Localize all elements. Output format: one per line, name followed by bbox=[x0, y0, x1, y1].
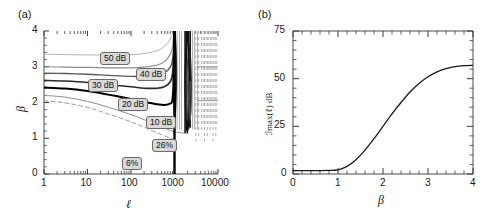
panel-a-ytick-label-4: 4 bbox=[32, 24, 38, 35]
panel-b-xtick-label-3: 3 bbox=[425, 177, 431, 188]
contour-label-6pct: 6% bbox=[122, 157, 142, 170]
panel-b-ticks bbox=[293, 31, 473, 174]
panel-b-curve bbox=[293, 65, 473, 170]
panel-a-xaxis-title: ℓ bbox=[126, 197, 131, 212]
figure-container: (a) (b) 1 10 100 1000 10000 0 1 2 3 4 ℓ … bbox=[0, 0, 497, 222]
contour-label-26pct: 26% bbox=[152, 139, 177, 152]
figure-svg bbox=[0, 0, 497, 222]
contour-label-10db: 10 dB bbox=[146, 116, 176, 129]
panel-a-xtick-label-10: 10 bbox=[81, 177, 92, 188]
panel-b-group bbox=[293, 31, 473, 174]
panel-a-ytick-label-3: 3 bbox=[32, 60, 38, 71]
panel-b-xaxis-title: β bbox=[378, 193, 384, 208]
panel-a-ytick-label-2: 2 bbox=[32, 96, 38, 107]
panel-b-xtick-label-1: 1 bbox=[335, 177, 341, 188]
panel-b-xtick-label-4: 4 bbox=[470, 177, 476, 188]
panel-b-yaxis-title: ℐmax(ℓ) dB bbox=[264, 92, 274, 135]
panel-a-ytick-label-1: 1 bbox=[32, 131, 38, 142]
contour-label-40db: 40 dB bbox=[136, 68, 166, 81]
panel-b-axes bbox=[293, 31, 473, 174]
panel-a-resonance-band bbox=[173, 31, 218, 174]
panel-a-yaxis-title: β bbox=[14, 106, 29, 112]
contour-label-30db: 30 dB bbox=[88, 79, 118, 92]
panel-b-xtick-label-0: 0 bbox=[290, 177, 296, 188]
contour-label-50db: 50 dB bbox=[100, 52, 130, 65]
panel-a-xtick-label-1: 1 bbox=[41, 177, 47, 188]
panel-a-tag: (a) bbox=[18, 8, 31, 20]
panel-b-ytick-label-75: 75 bbox=[274, 24, 285, 35]
panel-b-ytick-label-25: 25 bbox=[274, 119, 285, 130]
panel-a-xtick-label-10000: 10000 bbox=[201, 177, 229, 188]
panel-b-tag: (b) bbox=[258, 8, 271, 20]
panel-a-ytick-label-0: 0 bbox=[32, 167, 38, 178]
contour-label-20db: 20 dB bbox=[118, 98, 148, 111]
panel-b-ytick-label-0: 0 bbox=[281, 167, 287, 178]
panel-b-xtick-label-2: 2 bbox=[380, 177, 386, 188]
panel-a-xtick-label-1000: 1000 bbox=[162, 177, 184, 188]
panel-a-xtick-label-100: 100 bbox=[121, 177, 138, 188]
panel-b-ytick-label-50: 50 bbox=[274, 72, 285, 83]
